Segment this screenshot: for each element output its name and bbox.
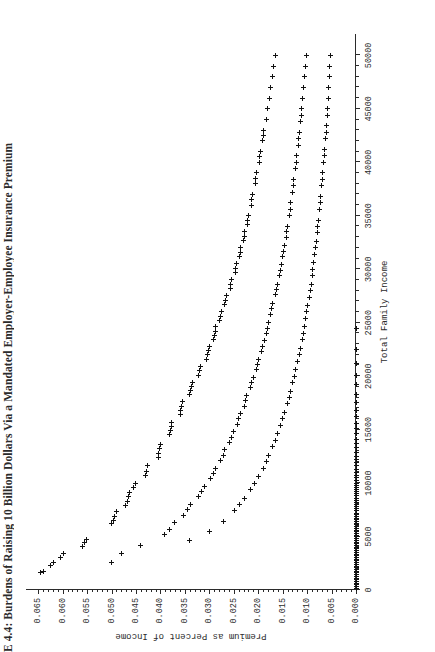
data-point — [292, 374, 297, 379]
data-point — [252, 481, 257, 486]
y-tick-minor — [229, 590, 230, 593]
data-point — [275, 282, 280, 287]
data-point — [211, 337, 216, 342]
data-point — [269, 306, 274, 311]
y-tick-label: 0.060 — [58, 598, 68, 624]
y-tick-minor — [224, 590, 225, 593]
data-point — [256, 357, 261, 362]
y-tick — [136, 590, 137, 594]
x-tick-label: 40000 — [364, 150, 374, 176]
y-tick-minor — [121, 590, 122, 593]
data-point — [261, 128, 266, 133]
data-point — [314, 239, 319, 244]
data-point — [119, 551, 124, 556]
data-point — [270, 301, 275, 306]
data-point — [254, 367, 259, 372]
data-point — [235, 422, 240, 427]
data-point — [325, 106, 330, 111]
data-point — [327, 74, 332, 79]
data-point — [167, 527, 172, 532]
data-point — [318, 200, 323, 205]
data-point — [248, 487, 253, 492]
data-point — [109, 521, 114, 526]
data-point — [294, 153, 299, 158]
data-point — [178, 412, 183, 417]
data-point — [218, 314, 223, 319]
x-tick-minor — [356, 343, 359, 344]
y-tick-minor — [82, 590, 83, 593]
y-tick-minor — [53, 590, 54, 593]
data-point — [287, 395, 292, 400]
data-point — [277, 273, 282, 278]
data-point — [144, 469, 149, 474]
data-point — [268, 312, 273, 317]
y-tick-label: 0.065 — [33, 598, 43, 624]
x-tick-minor — [356, 568, 359, 569]
y-tick-minor — [141, 590, 142, 593]
y-tick-minor — [341, 590, 342, 593]
data-point — [264, 331, 269, 336]
x-axis-title: Total Family Income — [380, 261, 390, 364]
x-tick-minor — [356, 397, 359, 398]
data-point — [285, 401, 290, 406]
data-point — [316, 218, 321, 223]
data-point — [241, 238, 246, 243]
data-point — [80, 544, 85, 549]
data-point — [291, 183, 296, 188]
data-point — [229, 277, 234, 282]
x-tick — [356, 108, 360, 109]
data-point — [196, 494, 201, 499]
x-tick-label: 50000 — [364, 43, 374, 69]
data-point — [242, 404, 247, 409]
data-point — [324, 123, 329, 128]
y-tick-minor — [244, 590, 245, 593]
y-tick — [209, 590, 210, 594]
data-point — [156, 455, 161, 460]
x-tick-minor — [356, 311, 359, 312]
x-tick — [356, 268, 360, 269]
y-tick-label: 0.045 — [131, 598, 141, 624]
data-point — [143, 473, 148, 478]
y-tick-minor — [297, 590, 298, 593]
data-point — [278, 423, 283, 428]
data-point — [245, 222, 250, 227]
data-point — [326, 85, 331, 90]
y-tick-minor — [151, 590, 152, 593]
data-point — [322, 153, 327, 158]
x-tick — [356, 429, 360, 430]
data-point — [188, 502, 193, 507]
data-point — [133, 481, 138, 486]
y-tick-label: 0.010 — [302, 598, 312, 624]
data-point — [284, 229, 289, 234]
x-tick-label: 25000 — [364, 310, 374, 336]
data-point — [254, 171, 259, 176]
x-tick — [356, 375, 360, 376]
data-point — [262, 338, 267, 343]
data-point — [320, 177, 325, 182]
data-point — [328, 53, 333, 58]
x-tick-minor — [356, 204, 359, 205]
x-tick-minor — [356, 386, 359, 387]
data-point — [207, 344, 212, 349]
data-point — [256, 474, 261, 479]
data-point — [213, 329, 218, 334]
x-tick-label: 35000 — [364, 203, 374, 229]
data-point — [205, 352, 210, 357]
data-point — [305, 303, 310, 308]
data-point — [275, 431, 280, 436]
data-point — [221, 519, 226, 524]
y-tick-minor — [200, 590, 201, 593]
data-point — [246, 213, 251, 218]
x-tick-label: 20000 — [364, 363, 374, 389]
data-point — [281, 249, 286, 254]
data-point — [169, 420, 174, 425]
y-tick-minor — [107, 590, 108, 593]
data-point — [323, 136, 328, 141]
x-tick-minor — [356, 193, 359, 194]
data-point — [253, 176, 258, 181]
x-tick-minor — [356, 76, 359, 77]
data-point — [138, 543, 143, 548]
data-point — [295, 359, 300, 364]
data-point — [261, 133, 266, 138]
y-tick-label: 0.005 — [327, 598, 337, 624]
